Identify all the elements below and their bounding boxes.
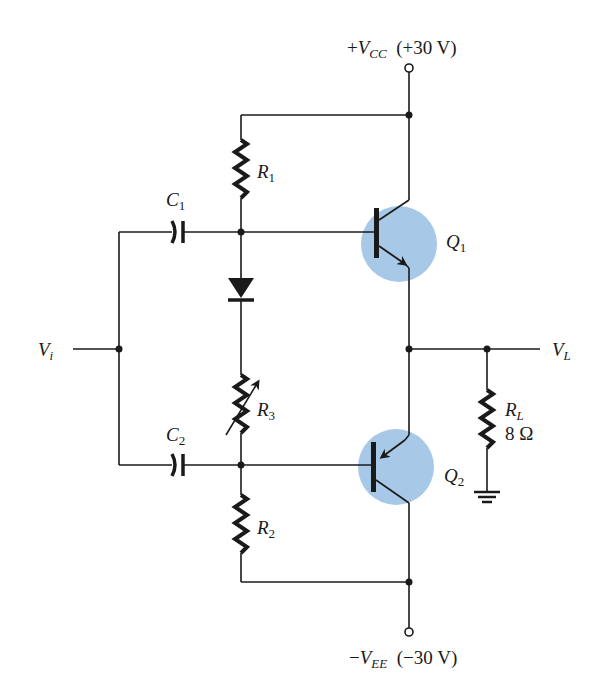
capacitor-c2 [119, 454, 241, 476]
r2-label: R2 [257, 518, 275, 540]
q1-label: Q1 [446, 232, 466, 254]
rl-label: RL [505, 400, 524, 422]
resistor-r1 [235, 115, 247, 232]
vl-label: VL [552, 340, 571, 362]
q1-highlight [361, 206, 437, 282]
capacitor-c1 [119, 221, 241, 243]
load-resistor-rl [481, 349, 493, 491]
vcc-rail [241, 64, 413, 119]
circuit-diagram [0, 0, 595, 696]
c1-label: C1 [166, 190, 185, 212]
diode-d1 [228, 232, 254, 375]
ground-icon [474, 492, 500, 502]
vcc-label: +VCC (+30 V) [347, 38, 457, 60]
rl-value: 8 Ω [505, 424, 533, 443]
r3-label: R3 [257, 400, 275, 422]
c2-label: C2 [166, 425, 185, 447]
variable-resistor-r3 [226, 375, 258, 465]
r1-label: R1 [257, 162, 275, 184]
vee-label: −VEE (−30 V) [349, 648, 457, 670]
vee-terminal [405, 628, 413, 636]
q2-label: Q2 [444, 466, 464, 488]
vcc-terminal [405, 64, 413, 72]
vi-label: Vi [38, 340, 53, 362]
